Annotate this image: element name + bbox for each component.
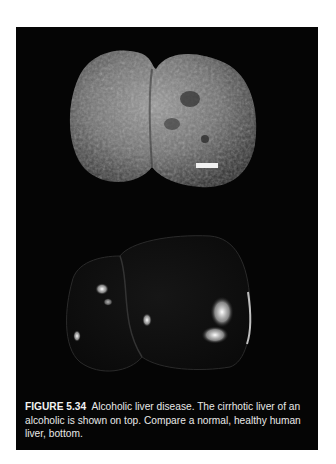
healthy-liver-image <box>50 222 270 392</box>
figure-label: FIGURE 5.34 <box>25 401 86 412</box>
scale-bar <box>196 163 218 168</box>
figure-panel: FIGURE 5.34 Alcoholic liver disease. The… <box>16 27 318 450</box>
figure-caption: FIGURE 5.34 Alcoholic liver disease. The… <box>25 400 311 441</box>
cirrhotic-liver-image <box>60 39 270 199</box>
